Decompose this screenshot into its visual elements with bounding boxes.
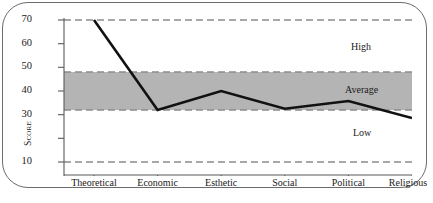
- band-label-low: Low: [353, 128, 371, 138]
- x-axis-tick-labels: Theoretical Economic Esthetic Social Pol…: [36, 178, 412, 198]
- x-tick-label-social: Social: [272, 178, 297, 188]
- plot-area: 70 60 50 40 30 10 Score Theoretical Econ…: [36, 18, 412, 176]
- y-tick-label: 60: [22, 38, 33, 49]
- x-tick-label-esthetic: Esthetic: [205, 178, 237, 188]
- y-tick-label: 10: [22, 156, 33, 167]
- x-tick-label-theoretical: Theoretical: [71, 178, 117, 188]
- y-tick-label: 40: [22, 85, 33, 96]
- y-tick-label: 70: [22, 14, 33, 25]
- band-label-high: High: [351, 42, 371, 52]
- y-tick-label: 50: [22, 61, 33, 72]
- y-axis-ticks: [58, 20, 64, 162]
- x-tick-label-economic: Economic: [137, 178, 178, 188]
- x-tick-label-religious: Religious: [389, 178, 427, 188]
- y-axis-tick-labels: 70 60 50 40 30 10: [12, 18, 32, 176]
- band-label-average: Average: [345, 85, 378, 95]
- chart-figure: 70 60 50 40 30 10 Score Theoretical Econ…: [0, 0, 433, 203]
- y-tick-label: 30: [22, 109, 33, 120]
- y-axis-title: Score: [23, 121, 33, 146]
- x-tick-label-political: Political: [332, 178, 365, 188]
